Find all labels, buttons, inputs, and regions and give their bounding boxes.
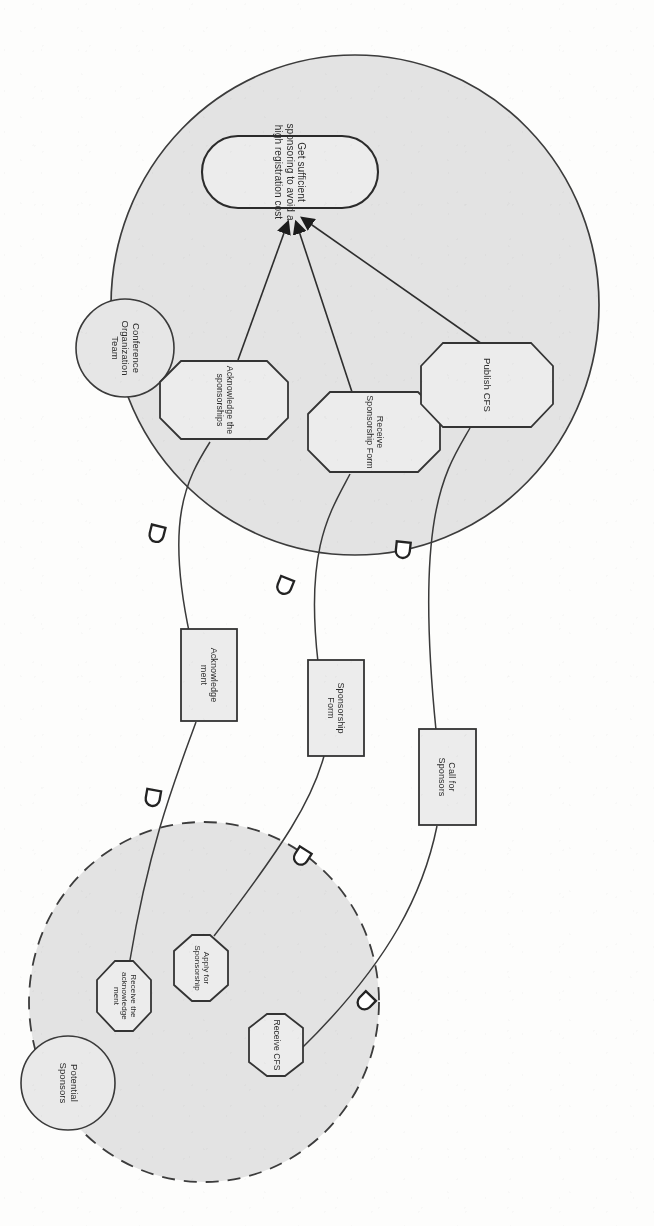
diagram-page: Get sufficient sponsoring to avoid a hig…: [0, 0, 654, 1226]
task-acknowledge-the-sponsorships[interactable]: [160, 361, 288, 439]
task-apply-for-sponsorship[interactable]: [174, 935, 228, 1001]
dependency-marker-acknowledgement-lower: [145, 789, 162, 807]
dependency-marker-sponsorship-form-upper: [275, 576, 294, 596]
goal-get-sufficient-sponsoring[interactable]: [202, 136, 378, 208]
resource-sponsorship-form[interactable]: [308, 660, 364, 756]
dependency-marker-call-for-sponsors-upper: [395, 541, 411, 558]
dependency-marker-acknowledgement-upper: [148, 525, 165, 544]
diagram-canvas: [0, 0, 654, 1226]
actor-role-potential-sponsors[interactable]: [21, 1036, 115, 1130]
task-receive-the-acknowledgement[interactable]: [97, 961, 151, 1031]
resource-acknowledgement[interactable]: [181, 629, 237, 721]
resource-call-for-sponsors[interactable]: [419, 729, 476, 825]
task-publish-cfs[interactable]: [421, 343, 553, 427]
task-receive-cfs[interactable]: [249, 1014, 303, 1076]
actor-boundary-conference-organization-team[interactable]: [111, 55, 599, 555]
